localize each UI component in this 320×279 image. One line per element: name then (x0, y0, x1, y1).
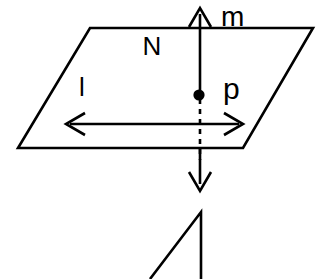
label-plane-n: N (143, 31, 162, 61)
label-line-l: l (79, 72, 85, 102)
partial-triangle-below (150, 212, 201, 279)
label-point-p: p (223, 72, 240, 105)
diagram-canvas: N l p m (0, 0, 320, 279)
geometry-diagram: N l p m (0, 0, 320, 279)
label-line-m: m (221, 1, 244, 32)
plane-n-parallelogram (18, 28, 313, 148)
point-p-dot (193, 89, 204, 100)
